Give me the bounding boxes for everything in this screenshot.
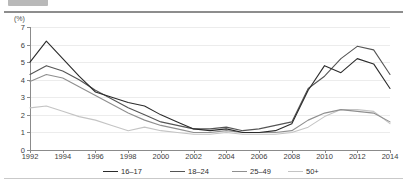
chart-figure: (%) 01234567 199219941996199820002002200…: [0, 0, 407, 182]
legend-item[interactable]: 50+: [288, 165, 319, 177]
legend-swatch-icon: [170, 171, 185, 172]
legend-swatch-icon: [103, 171, 118, 172]
legend-label: 18–24: [188, 167, 209, 176]
legend-swatch-icon: [232, 171, 247, 172]
legend-item[interactable]: 16–17: [103, 165, 142, 177]
legend-label: 50+: [306, 167, 319, 176]
footer-divider: [4, 178, 403, 179]
series-line-1617: [30, 41, 390, 132]
legend-swatch-icon: [288, 171, 303, 172]
series-lines: [0, 0, 407, 182]
legend-item[interactable]: 25–49: [232, 165, 271, 177]
chart-legend: 16–1718–2425–4950+: [0, 165, 407, 177]
legend-label: 25–49: [250, 167, 271, 176]
legend-label: 16–17: [121, 167, 142, 176]
legend-item[interactable]: 18–24: [170, 165, 209, 177]
